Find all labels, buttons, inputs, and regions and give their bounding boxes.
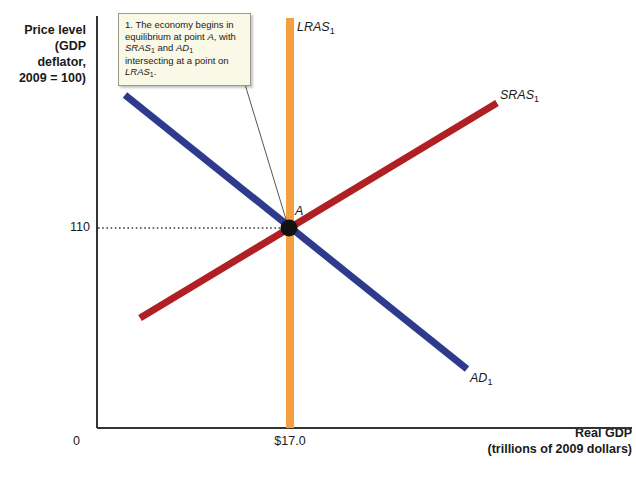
sras-curve-label-subscript: 1 [534, 94, 539, 104]
lras-curve-label-text: LRAS [297, 20, 330, 34]
sras-curve-label: SRAS1 [500, 88, 539, 102]
ad-curve-label-text: AD [470, 371, 487, 385]
x-tick-label-gdp: $17.0 [274, 434, 305, 448]
lras-curve-label-subscript: 1 [330, 26, 335, 36]
callout-curve-lras: LRAS [125, 66, 150, 77]
equilibrium-point-label: A [295, 204, 303, 218]
callout-curve-ad: AD [176, 42, 189, 53]
figure-container: Price level (GDP deflator, 2009 = 100) R… [0, 0, 636, 479]
callout-box: 1. The economy begins in equilibrium at … [118, 13, 251, 86]
plot-area [0, 0, 636, 479]
lras-curve-label: LRAS1 [297, 20, 335, 34]
callout-text-3: and [155, 42, 176, 53]
callout-text-5: . [154, 66, 157, 77]
callout-curve-lras-subscript: 1 [150, 71, 154, 78]
sras-curve [140, 103, 497, 318]
sras-curve-label-text: SRAS [500, 88, 534, 102]
callout-text-2: , with [214, 31, 236, 42]
callout-curve-sras-subscript: 1 [151, 47, 155, 54]
callout-curve-ad-subscript: 1 [189, 47, 193, 54]
ad-curve-label: AD1 [470, 371, 492, 385]
equilibrium-point-dot [281, 220, 298, 237]
y-tick-label-110: 110 [62, 220, 90, 234]
ad-curve-label-subscript: 1 [487, 377, 492, 387]
origin-label: 0 [73, 434, 80, 448]
callout-text-4: intersecting at a point on [125, 55, 229, 66]
callout-number: 1. [125, 19, 133, 30]
callout-curve-sras: SRAS [125, 42, 151, 53]
